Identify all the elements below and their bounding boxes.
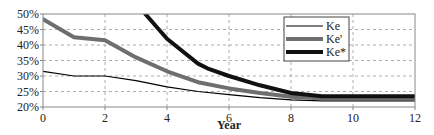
y-tick-label: 50% [17,7,39,21]
legend: KeKe'Ke* [284,17,349,61]
x-tick-label: 4 [164,111,170,125]
series-line-3 [145,14,415,96]
x-tick-label: 8 [288,111,294,125]
x-tick-label: 0 [40,111,46,125]
legend-label: Ke* [326,45,346,59]
grid [43,14,415,107]
y-tick-label: 30% [17,69,39,83]
legend-label: Ke [326,19,340,33]
y-tick-label: 40% [17,38,39,52]
y-axis: 20%25%30%35%40%45%50% [17,7,43,114]
x-tick-label: 2 [102,111,108,125]
x-axis-label: Year [217,118,242,132]
y-tick-label: 25% [17,85,39,99]
y-tick-label: 35% [17,54,39,68]
y-tick-label: 45% [17,23,39,37]
x-tick-label: 10 [347,111,359,125]
x-tick-label: 12 [409,111,421,125]
legend-label: Ke' [326,32,342,46]
y-tick-label: 20% [17,100,39,114]
line-chart: 20%25%30%35%40%45%50% 024681012 Year KeK… [0,0,434,135]
